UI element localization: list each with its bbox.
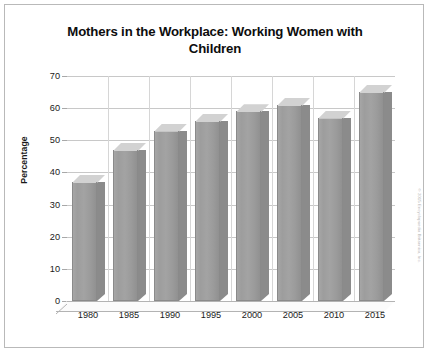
bar-front-face bbox=[113, 150, 138, 301]
bar-side-face bbox=[261, 111, 269, 301]
bar-1990[interactable] bbox=[154, 131, 179, 301]
y-axis-tick-mark bbox=[62, 140, 67, 141]
chart-title-line-2: Children bbox=[21, 40, 409, 57]
y-axis-tick-label: 70 bbox=[50, 71, 60, 81]
y-axis-tick-mark bbox=[62, 269, 67, 270]
vertical-gridline bbox=[354, 76, 355, 301]
bar-1980[interactable] bbox=[72, 182, 97, 301]
x-axis-tick-label-1990: 1990 bbox=[148, 310, 192, 320]
y-axis-tick-mark bbox=[62, 237, 67, 238]
vertical-gridline bbox=[272, 76, 273, 301]
bar-front-face bbox=[195, 121, 220, 301]
bar-front-face bbox=[236, 111, 261, 301]
bar-1985[interactable] bbox=[113, 150, 138, 301]
y-axis-tick-mark bbox=[62, 205, 67, 206]
x-axis-tick-label-2015: 2015 bbox=[353, 310, 397, 320]
x-axis-tick-labels: 19801985199019952000200520102015 bbox=[67, 310, 395, 326]
y-axis-tick-label: 50 bbox=[50, 135, 60, 145]
plot-area: 706050403020100 bbox=[67, 76, 395, 301]
bar-2000[interactable] bbox=[236, 111, 261, 301]
y-axis-tick-label: 40 bbox=[50, 167, 60, 177]
x-axis-tick-label-2005: 2005 bbox=[271, 310, 315, 320]
y-axis-tick-label: 30 bbox=[50, 200, 60, 210]
y-axis-tick-mark bbox=[62, 108, 67, 109]
vertical-gridline bbox=[190, 76, 191, 301]
bar-2015[interactable] bbox=[359, 92, 384, 301]
x-axis-tick-label-1985: 1985 bbox=[107, 310, 151, 320]
bar-side-face bbox=[220, 121, 228, 301]
watermark-text: © 2015 Encyclopaedia Britannica, Inc. bbox=[417, 188, 422, 263]
y-axis-title: Percentage bbox=[19, 125, 29, 195]
chart-title-line-1: Mothers in the Workplace: Working Women … bbox=[21, 23, 409, 40]
vertical-gridline bbox=[108, 76, 109, 301]
bar-front-face bbox=[277, 105, 302, 301]
x-axis-tick-label-1980: 1980 bbox=[66, 310, 110, 320]
chart-frame: Mothers in the Workplace: Working Women … bbox=[4, 4, 424, 348]
vertical-gridline bbox=[149, 76, 150, 301]
chart-title: Mothers in the Workplace: Working Women … bbox=[21, 23, 409, 57]
bar-front-face bbox=[359, 92, 384, 301]
y-axis-tick-label: 20 bbox=[50, 232, 60, 242]
bar-2010[interactable] bbox=[318, 118, 343, 301]
axis-floor-top-edge bbox=[67, 301, 395, 302]
bar-front-face bbox=[154, 131, 179, 301]
y-axis-tick-label: 10 bbox=[50, 264, 60, 274]
bar-side-face bbox=[97, 182, 105, 301]
vertical-gridline bbox=[313, 76, 314, 301]
y-axis-tick-label: 60 bbox=[50, 103, 60, 113]
bar-side-face bbox=[384, 92, 392, 301]
bar-2005[interactable] bbox=[277, 105, 302, 301]
x-axis-tick-label-1995: 1995 bbox=[189, 310, 233, 320]
bar-side-face bbox=[179, 131, 187, 301]
bar-side-face bbox=[343, 118, 351, 301]
y-axis-tick-mark bbox=[62, 76, 67, 77]
bar-front-face bbox=[318, 118, 343, 301]
bar-front-face bbox=[72, 182, 97, 301]
bar-side-face bbox=[302, 105, 310, 301]
x-axis-tick-label-2000: 2000 bbox=[230, 310, 274, 320]
bar-side-face bbox=[138, 150, 146, 301]
bar-1995[interactable] bbox=[195, 121, 220, 301]
x-axis-tick-label-2010: 2010 bbox=[312, 310, 356, 320]
vertical-gridline bbox=[231, 76, 232, 301]
y-axis-tick-mark bbox=[62, 172, 67, 173]
